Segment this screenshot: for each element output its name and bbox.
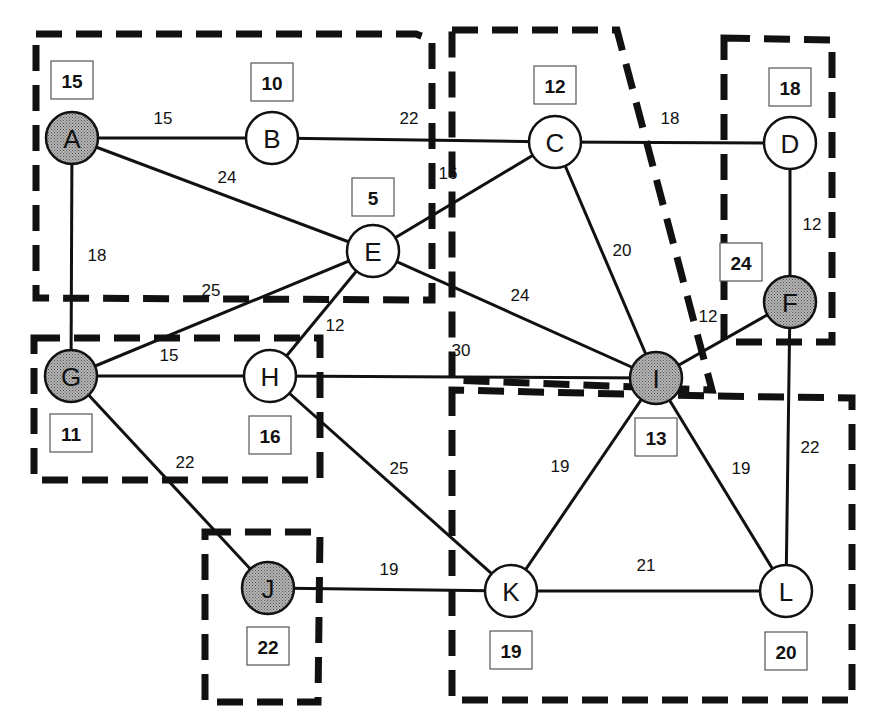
node-label: C bbox=[546, 128, 565, 158]
edge-weight-label: 22 bbox=[400, 109, 419, 128]
edge-e-i bbox=[373, 251, 656, 378]
edge-label-layer: 1522182418162012251224121530222519192219… bbox=[88, 109, 822, 579]
node-weight-value: 19 bbox=[500, 641, 521, 662]
edge-weight-label: 19 bbox=[380, 560, 399, 579]
edge-weight-label: 19 bbox=[732, 459, 751, 478]
edge-i-l bbox=[656, 378, 786, 591]
edge-weight-label: 12 bbox=[326, 316, 345, 335]
region-bottom-left bbox=[205, 532, 320, 702]
edge-c-i bbox=[555, 142, 656, 378]
node-weight-box-l: 20 bbox=[765, 632, 807, 670]
node-weight-box-k: 19 bbox=[490, 631, 532, 669]
edge-a-g bbox=[71, 138, 72, 376]
node-f: F bbox=[764, 276, 816, 328]
edge-weight-label: 24 bbox=[511, 286, 530, 305]
node-weight-value: 5 bbox=[368, 188, 379, 209]
node-label: B bbox=[263, 124, 280, 154]
weight-box-layer: 15101218524111613221920 bbox=[50, 61, 811, 670]
edge-h-i bbox=[270, 376, 656, 378]
edge-weight-label: 21 bbox=[637, 556, 656, 575]
edge-weight-label: 12 bbox=[699, 307, 718, 326]
node-weight-box-c: 12 bbox=[534, 66, 576, 104]
node-weight-box-e: 5 bbox=[352, 178, 394, 216]
node-weight-box-h: 16 bbox=[249, 416, 291, 454]
edge-weight-label: 20 bbox=[613, 241, 632, 260]
edge-weight-label: 15 bbox=[154, 109, 173, 128]
node-weight-box-g: 11 bbox=[50, 414, 92, 452]
node-label: H bbox=[261, 362, 280, 392]
node-label: D bbox=[781, 129, 800, 159]
node-label: F bbox=[782, 288, 798, 318]
node-l: L bbox=[760, 565, 812, 617]
node-h: H bbox=[244, 350, 296, 402]
edge-weight-label: 18 bbox=[661, 109, 680, 128]
edge-e-g bbox=[71, 251, 373, 376]
node-weight-value: 18 bbox=[779, 78, 800, 99]
region-top-middle bbox=[452, 30, 712, 390]
edge-a-e bbox=[72, 138, 373, 251]
edge-weight-label: 19 bbox=[551, 457, 570, 476]
node-weight-box-a: 15 bbox=[51, 61, 93, 99]
node-weight-value: 24 bbox=[730, 253, 752, 274]
node-weight-value: 11 bbox=[61, 424, 82, 445]
node-d: D bbox=[764, 117, 816, 169]
node-weight-value: 13 bbox=[645, 428, 666, 449]
edge-weight-label: 22 bbox=[801, 438, 820, 457]
node-weight-value: 22 bbox=[257, 637, 278, 658]
node-a: A bbox=[46, 112, 98, 164]
node-weight-box-j: 22 bbox=[247, 627, 289, 665]
edge-weight-label: 30 bbox=[452, 341, 471, 360]
node-weight-value: 10 bbox=[261, 73, 282, 94]
edge-weight-label: 22 bbox=[176, 453, 195, 472]
edge-i-k bbox=[511, 378, 656, 591]
edge-weight-label: 12 bbox=[803, 215, 822, 234]
node-g: G bbox=[45, 350, 97, 402]
node-weight-value: 20 bbox=[775, 642, 796, 663]
edge-weight-label: 16 bbox=[439, 164, 458, 183]
node-i: I bbox=[630, 352, 682, 404]
edge-c-d bbox=[555, 142, 790, 143]
edge-e-c bbox=[373, 142, 555, 251]
node-weight-box-b: 10 bbox=[251, 63, 293, 101]
node-weight-value: 12 bbox=[544, 76, 565, 97]
node-b: B bbox=[246, 112, 298, 164]
edge-weight-label: 18 bbox=[88, 246, 107, 265]
node-k: K bbox=[485, 565, 537, 617]
edge-b-c bbox=[272, 138, 555, 142]
region-layer bbox=[34, 30, 852, 702]
edge-j-k bbox=[268, 588, 511, 591]
node-weight-box-d: 18 bbox=[769, 68, 811, 106]
node-weight-box-f: 24 bbox=[720, 243, 762, 281]
node-weight-value: 16 bbox=[259, 426, 280, 447]
edge-weight-label: 25 bbox=[202, 281, 221, 300]
node-label: L bbox=[779, 577, 793, 607]
node-e: E bbox=[347, 225, 399, 277]
node-weight-box-i: 13 bbox=[635, 418, 677, 456]
node-label: I bbox=[652, 364, 659, 394]
graph-diagram: 1522182418162012251224121530222519192219… bbox=[0, 0, 881, 727]
node-label: K bbox=[502, 577, 520, 607]
node-label: G bbox=[61, 362, 81, 392]
edge-weight-label: 25 bbox=[390, 459, 409, 478]
edge-weight-label: 15 bbox=[160, 346, 179, 365]
node-label: J bbox=[262, 574, 275, 604]
node-label: E bbox=[364, 237, 381, 267]
node-c: C bbox=[529, 116, 581, 168]
node-weight-value: 15 bbox=[61, 71, 83, 92]
node-label: A bbox=[63, 124, 81, 154]
node-j: J bbox=[242, 562, 294, 614]
edge-weight-label: 24 bbox=[218, 168, 237, 187]
